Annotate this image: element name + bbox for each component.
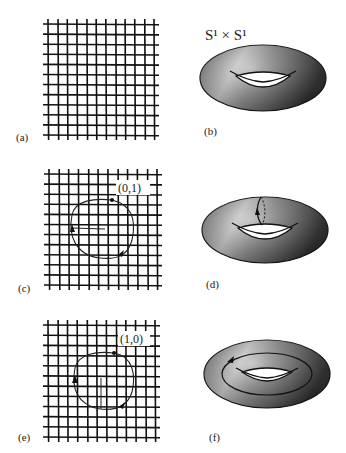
grid-horizontal-line: [43, 366, 160, 367]
grid-vertical-line: [48, 320, 49, 442]
torus-f: [204, 340, 330, 408]
grid-horizontal-line: [43, 74, 159, 75]
grid-horizontal-line: [43, 24, 159, 25]
grid-a: [43, 19, 159, 140]
panel-label-e: (e): [18, 431, 31, 444]
grid-horizontal-line: [44, 245, 162, 246]
grid-vertical-line: [77, 19, 78, 140]
grid-horizontal-line: [43, 44, 159, 45]
grid-vertical-line: [108, 169, 109, 290]
grid-vertical-line: [69, 169, 70, 290]
torus-figure: (a) S¹ × S¹ (b) (0,1) (c) (d) (1,0): [0, 0, 346, 453]
grid-horizontal-line: [43, 427, 160, 428]
grid-vertical-line: [87, 19, 88, 140]
grid-vertical-line: [106, 19, 107, 140]
panel-label-c: (c): [18, 282, 31, 295]
grid-horizontal-line: [43, 376, 160, 377]
grid-vertical-line: [154, 19, 155, 140]
grid-vertical-line: [67, 19, 68, 140]
grid-horizontal-line: [43, 95, 159, 96]
grid-horizontal-line: [43, 437, 160, 438]
grid-horizontal-line: [44, 224, 162, 225]
grid-horizontal-line: [43, 417, 160, 418]
grid-vertical-line: [58, 19, 59, 140]
grid-horizontal-line: [44, 285, 162, 286]
grid-horizontal-line: [44, 214, 162, 215]
grid-horizontal-line: [43, 356, 160, 357]
panel-label-b: (b): [204, 125, 217, 138]
panel-label-a: (a): [16, 131, 29, 144]
grid-horizontal-line: [43, 34, 159, 35]
loop-label-e: (1,0): [120, 332, 143, 346]
grid-horizontal-line: [43, 125, 159, 126]
loop-cut: [72, 228, 105, 229]
loop-curve: [74, 352, 134, 409]
grid-vertical-line: [135, 19, 136, 140]
loop-point: [112, 351, 116, 355]
grid-horizontal-line: [44, 174, 162, 175]
grid-horizontal-line: [44, 235, 162, 236]
grid-horizontal-line: [44, 265, 162, 266]
loop-label-c: (0,1): [118, 181, 141, 195]
grid-vertical-line: [87, 320, 88, 442]
grid-vertical-line: [157, 169, 158, 290]
loop-e: [72, 351, 134, 409]
panel-label-f: (f): [209, 431, 220, 444]
loop-point: [110, 198, 114, 202]
grid-horizontal-line: [44, 255, 162, 256]
grid-horizontal-line: [44, 204, 162, 205]
grid-vertical-line: [106, 320, 107, 442]
torus-d: [202, 197, 328, 263]
grid-horizontal-line: [43, 135, 159, 136]
grid-vertical-line: [116, 19, 117, 140]
grid-vertical-line: [67, 320, 68, 442]
grid-vertical-line: [155, 320, 156, 442]
grid-vertical-line: [116, 320, 117, 442]
grid-vertical-line: [98, 169, 99, 290]
grid-vertical-line: [59, 169, 60, 290]
grid-vertical-line: [49, 169, 50, 290]
grid-horizontal-line: [43, 85, 159, 86]
grid-vertical-line: [48, 19, 49, 140]
torus-title: S¹ × S¹: [205, 27, 247, 43]
panel-label-d: (d): [206, 278, 219, 291]
grid-horizontal-line: [43, 105, 159, 106]
grid-horizontal-line: [43, 64, 159, 65]
grid-horizontal-line: [44, 275, 162, 276]
grid-vertical-line: [125, 19, 126, 140]
grid-vertical-line: [145, 19, 146, 140]
grid-horizontal-line: [43, 325, 160, 326]
grid-vertical-line: [77, 320, 78, 442]
torus-b: [200, 45, 326, 111]
grid-vertical-line: [58, 320, 59, 442]
grid-horizontal-line: [43, 54, 159, 55]
loop-c: [70, 198, 134, 258]
grid-horizontal-line: [43, 115, 159, 116]
grid-vertical-line: [78, 169, 79, 290]
grid-vertical-line: [97, 320, 98, 442]
arrow-icon: [119, 402, 125, 409]
grid-vertical-line: [96, 19, 97, 140]
grid-vertical-line: [89, 169, 90, 290]
